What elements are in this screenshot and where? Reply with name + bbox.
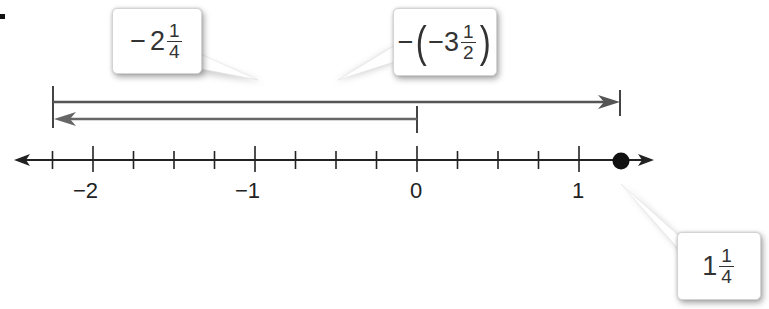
denominator: 2 [461, 43, 476, 63]
result-point-dot [613, 153, 630, 170]
fraction: 1 4 [719, 246, 734, 287]
arrow-minus-neg-three-and-half [53, 86, 620, 128]
numerator: 1 [461, 22, 476, 43]
callout-neg-two-and-quarter: − 2 1 4 [112, 8, 202, 74]
denominator: 4 [719, 267, 734, 287]
fraction: 1 4 [167, 21, 182, 62]
fraction: 1 2 [461, 22, 476, 63]
open-paren: ( [415, 20, 426, 64]
numerator: 1 [719, 246, 734, 267]
sign: − [130, 26, 146, 57]
callout-tail-second [338, 46, 394, 80]
outer-sign: − [398, 27, 414, 58]
tick-label-0: 0 [410, 178, 422, 204]
tick-label-neg-1: −1 [235, 178, 260, 204]
tick-marks [53, 146, 580, 172]
inner-sign: − [428, 27, 444, 58]
callout-result-one-and-quarter: 1 1 4 [677, 232, 761, 300]
callout-minus-neg-three-and-half: − ( − 3 1 2 ) [393, 8, 497, 76]
number-line-figure: −2 −1 0 1 − 2 1 4 − ( − 3 1 2 ) 1 1 4 [0, 0, 769, 309]
whole: 2 [150, 26, 165, 57]
arrow-neg-two-and-quarter [54, 106, 417, 133]
denominator: 4 [167, 42, 182, 62]
tick-label-neg-2: −2 [73, 178, 98, 204]
tick-label-1: 1 [572, 178, 584, 204]
number-line-axis [14, 146, 654, 172]
close-paren: ) [479, 20, 490, 64]
whole: 1 [702, 251, 717, 282]
numerator: 1 [167, 21, 182, 42]
whole: 3 [444, 27, 459, 58]
